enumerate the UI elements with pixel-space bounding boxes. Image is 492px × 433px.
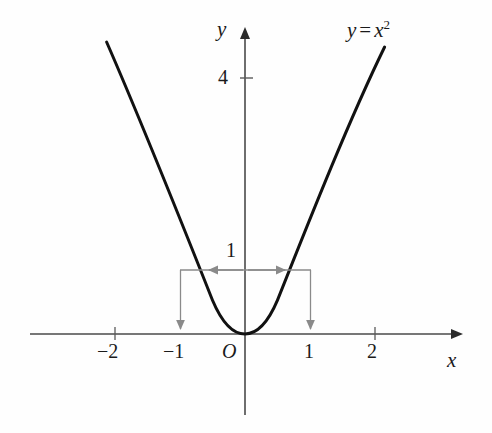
x-axis-label: x	[447, 350, 456, 371]
run-measure-label: 1	[226, 240, 236, 260]
x-tick-label-minus1: −1	[163, 341, 184, 361]
curve-equation-operator: =	[356, 18, 374, 42]
x-tick-label-minus2: −2	[97, 341, 118, 361]
curve-equation-label: y=x2	[347, 20, 390, 41]
x-tick-label-plus2: 2	[367, 341, 377, 361]
y-tick-label-4: 4	[218, 67, 228, 87]
plot-canvas	[0, 0, 492, 433]
y-axis-label: y	[217, 19, 226, 40]
x-tick-label-plus1: 1	[304, 341, 314, 361]
curve-equation-lhs: y	[347, 18, 356, 42]
parabola-figure: y x O 4 −2 −1 1 2 1 y=x2	[0, 0, 492, 433]
curve-equation-base: x	[374, 18, 383, 42]
curve-equation-exponent: 2	[384, 17, 391, 32]
origin-label: O	[222, 341, 236, 361]
